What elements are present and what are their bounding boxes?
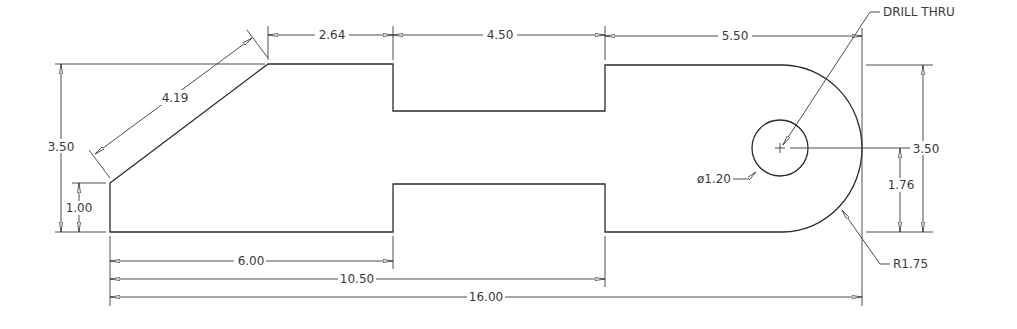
dim-3-50-left: 3.50 (48, 140, 75, 154)
dim-4-19: 4.19 (162, 91, 189, 105)
dim-1-76: 1.76 (888, 178, 915, 192)
technical-drawing: 2.64 4.50 5.50 4.19 3.50 1.00 6.00 10.50… (0, 0, 1017, 329)
dim-3-50-right: 3.50 (913, 142, 940, 156)
dimension-labels: 2.64 4.50 5.50 4.19 3.50 1.00 6.00 10.50… (47, 5, 955, 304)
dim-r1-75: R1.75 (893, 257, 928, 271)
dimension-lines (61, 12, 923, 297)
dim-5-50: 5.50 (722, 29, 749, 43)
dim-2-64: 2.64 (319, 28, 346, 42)
dim-16-00: 16.00 (469, 290, 503, 304)
dim-4-50: 4.50 (487, 28, 514, 42)
dim-1-00: 1.00 (66, 201, 93, 215)
drill-thru-note: DRILL THRU (883, 5, 955, 19)
dim-hole-diameter: ø1.20 (697, 172, 731, 186)
dim-10-50: 10.50 (340, 272, 374, 286)
part-outline (110, 64, 862, 232)
outline-path (110, 64, 862, 232)
dim-6-00: 6.00 (238, 254, 265, 268)
